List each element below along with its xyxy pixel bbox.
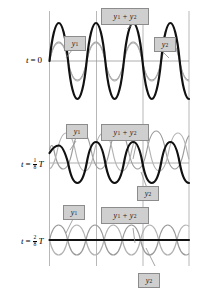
callout-sum-row2: y1 + y2 bbox=[101, 124, 149, 141]
time-period-row2: T bbox=[37, 160, 43, 169]
callout-sum-row1: y1 + y2 bbox=[101, 8, 149, 25]
callout-sum-plus-row2: + bbox=[120, 129, 130, 137]
leader-y2-row3 bbox=[146, 248, 155, 266]
panel-t0 bbox=[50, 23, 190, 99]
time-equals-row1: = bbox=[31, 56, 38, 65]
time-period-row3: T bbox=[37, 237, 43, 246]
time-label-row1: t = 0 bbox=[26, 56, 42, 65]
callout-sum-row3: y1 + y2 bbox=[101, 207, 149, 224]
callout-y2-row2: y2 bbox=[137, 186, 159, 201]
callout-y1-row1: y1 bbox=[64, 36, 86, 51]
fraction-denominator-row3: 8 bbox=[33, 242, 38, 248]
callout-y2-row3: y2 bbox=[138, 273, 160, 288]
time-equals-row3: = bbox=[26, 237, 33, 246]
fraction-denominator-row2: 8 bbox=[33, 165, 38, 171]
panel-t2over8 bbox=[50, 219, 190, 266]
time-label-row2: t = 1 8 T bbox=[21, 158, 43, 171]
callout-sum-plus-row3: + bbox=[120, 212, 130, 220]
callout-y2-row1: y2 bbox=[154, 37, 176, 52]
time-fraction-row2: 1 8 bbox=[33, 158, 38, 171]
time-equals-row2: = bbox=[26, 160, 33, 169]
time-fraction-row3: 2 8 bbox=[33, 235, 38, 248]
callout-y1-row2: y1 bbox=[66, 124, 88, 139]
callout-sum-plus-row1: + bbox=[120, 13, 130, 21]
time-value-row1: 0 bbox=[38, 56, 43, 65]
leader-sum-row2 bbox=[133, 145, 136, 159]
wave-interference-figure: t = 0 t = 1 8 T t = 2 8 T y1 + y2 y1 y2 … bbox=[0, 0, 200, 298]
leader-y1-row3 bbox=[66, 219, 73, 233]
time-label-row3: t = 2 8 T bbox=[21, 235, 43, 248]
wave-sum-row2 bbox=[50, 142, 190, 183]
callout-y1-row3: y1 bbox=[63, 205, 85, 220]
